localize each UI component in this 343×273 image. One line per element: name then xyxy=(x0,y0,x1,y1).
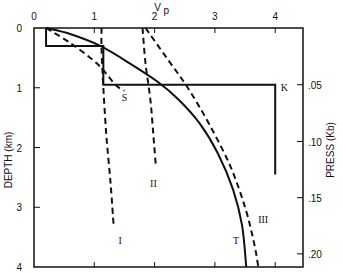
curve-label-iii: III xyxy=(258,214,268,225)
x-tick-label: 0 xyxy=(31,11,37,22)
y2-tick-label: .05 xyxy=(308,80,322,91)
y-tick-label: 0 xyxy=(16,23,22,34)
curve-label-s: S xyxy=(122,92,128,103)
x-axis-title-subscript: p xyxy=(164,5,170,16)
y-tick-label: 3 xyxy=(16,202,22,213)
chart-canvas: 0123401234.05.10.15.20VpDEPTH (km)PRESS … xyxy=(0,0,343,273)
depth-velocity-chart: 0123401234.05.10.15.20VpDEPTH (km)PRESS … xyxy=(0,0,343,273)
y-tick-label: 4 xyxy=(16,262,22,273)
y2-tick-label: .10 xyxy=(308,137,322,148)
x-tick-label: 1 xyxy=(92,11,98,22)
curve-label-ii: II xyxy=(150,178,157,189)
series-ii-line xyxy=(143,28,156,165)
plot-frame xyxy=(34,28,303,267)
curve-label-t: T xyxy=(233,235,239,246)
y2-axis-title: PRESS (Kb) xyxy=(325,122,336,178)
series-iii-line xyxy=(146,28,259,267)
y-axis-title: DEPTH (km) xyxy=(3,132,14,189)
x-tick-label: 4 xyxy=(272,11,278,22)
x-tick-label: 3 xyxy=(212,11,218,22)
series-t-line xyxy=(46,28,246,267)
x-axis-title: V xyxy=(154,2,161,13)
y2-tick-label: .15 xyxy=(308,193,322,204)
y2-tick-label: .20 xyxy=(308,249,322,260)
curve-label-k: K xyxy=(281,82,289,93)
series-s-line xyxy=(46,28,124,91)
y-tick-label: 2 xyxy=(16,143,22,154)
y-tick-label: 1 xyxy=(16,83,22,94)
curve-label-i: I xyxy=(119,235,122,246)
